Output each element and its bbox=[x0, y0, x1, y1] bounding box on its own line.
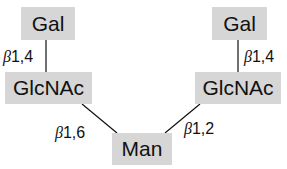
link-left-glcnac-man bbox=[82, 104, 117, 133]
node-man: Man bbox=[112, 133, 172, 165]
node-label: Gal bbox=[223, 12, 256, 36]
linkage-label-left-gal: β1,4 bbox=[3, 48, 33, 66]
node-label: GlcNAc bbox=[202, 76, 273, 100]
linkage-label-left-man: β1,6 bbox=[55, 124, 85, 142]
node-label: GlcNAc bbox=[13, 76, 84, 100]
node-gal-right: Gal bbox=[212, 7, 267, 40]
node-glcnac-right: GlcNAc bbox=[195, 72, 281, 104]
linkage-label-right-man: β1,2 bbox=[184, 120, 214, 138]
node-gal-left: Gal bbox=[21, 7, 75, 40]
node-label: Gal bbox=[32, 12, 65, 36]
linkage-label-right-gal: β1,4 bbox=[244, 48, 274, 66]
node-label: Man bbox=[122, 137, 163, 161]
node-glcnac-left: GlcNAc bbox=[5, 72, 92, 104]
